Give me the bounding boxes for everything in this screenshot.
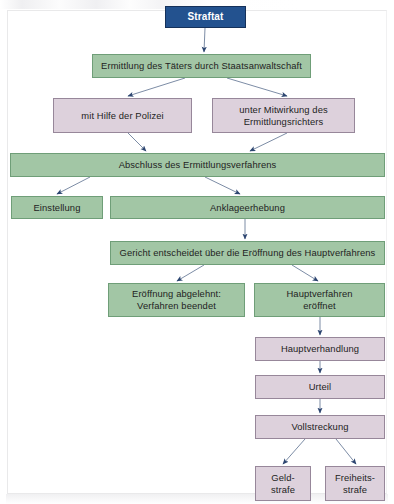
node-polizei: mit Hilfe der Polizei <box>53 98 192 133</box>
edge-ermittlung-to-polizei <box>128 78 185 96</box>
node-label-line: Geld- <box>268 472 298 484</box>
node-label-line: Straftat <box>185 11 227 24</box>
node-label-abschluss: Abschluss des Ermittlungsverfahrens <box>116 159 280 171</box>
node-label-einstellung: Einstellung <box>31 202 84 214</box>
node-label-line: Hauptverfahren <box>283 288 355 300</box>
node-label-line: Anklageerhebung <box>207 202 288 214</box>
node-straftat: Straftat <box>165 6 246 28</box>
node-ermittlung: Ermittlung des Täters durch Staatsanwalt… <box>92 54 311 78</box>
node-ermittlungsrichter: unter Mitwirkung desErmittlungsrichters <box>212 98 355 133</box>
node-label-line: Hauptverhandlung <box>278 343 362 355</box>
node-geldstrafe: Geld-strafe <box>255 466 311 501</box>
node-hauptverhandlung: Hauptverhandlung <box>255 337 385 361</box>
node-label-gericht: Gericht entscheidet über die Eröffnung d… <box>117 247 379 259</box>
node-label-line: Urteil <box>306 381 334 393</box>
node-label-line: strafe <box>268 484 298 496</box>
node-label-line: mit Hilfe der Polizei <box>78 110 166 122</box>
node-gericht: Gericht entscheidet über die Eröffnung d… <box>110 241 385 265</box>
node-label-vollstreckung: Vollstreckung <box>288 421 351 433</box>
node-label-ermittlung: Ermittlung des Täters durch Staatsanwalt… <box>98 60 305 72</box>
edge-vollstreckung-to-freiheitsstrafe <box>336 439 356 464</box>
node-label-urteil: Urteil <box>306 381 334 393</box>
edge-gericht-to-abgelehnt <box>177 265 204 281</box>
node-abgelehnt: Eröffnung abgelehnt:Verfahren beendet <box>108 283 245 317</box>
node-eroeffnet: Hauptverfahreneröffnet <box>254 283 385 317</box>
edge-gericht-to-eroeffnet <box>292 265 318 281</box>
node-label-line: Gericht entscheidet über die Eröffnung d… <box>117 247 379 259</box>
node-label-line: Ermittlung des Täters durch Staatsanwalt… <box>98 60 305 72</box>
node-label-polizei: mit Hilfe der Polizei <box>78 110 166 122</box>
node-einstellung: Einstellung <box>11 196 103 219</box>
node-label-abgelehnt: Eröffnung abgelehnt:Verfahren beendet <box>129 288 224 312</box>
node-label-eroeffnet: Hauptverfahreneröffnet <box>283 288 355 312</box>
edge-abschluss-to-einstellung <box>57 177 90 194</box>
node-label-line: eröffnet <box>283 300 355 312</box>
node-label-line: Einstellung <box>31 202 84 214</box>
flowchart-page: StraftatErmittlung des Täters durch Staa… <box>0 0 394 504</box>
node-label-line: Abschluss des Ermittlungsverfahrens <box>116 159 280 171</box>
node-label-freiheitsstrafe: Freiheits-strafe <box>332 472 378 496</box>
node-label-anklageerhebung: Anklageerhebung <box>207 202 288 214</box>
node-anklageerhebung: Anklageerhebung <box>110 196 385 219</box>
node-freiheitsstrafe: Freiheits-strafe <box>325 466 385 501</box>
node-label-line: Eröffnung abgelehnt: <box>129 288 224 300</box>
node-abschluss: Abschluss des Ermittlungsverfahrens <box>10 153 385 177</box>
edge-abschluss-to-anklageerhebung <box>205 177 240 194</box>
node-label-hauptverhandlung: Hauptverhandlung <box>278 343 362 355</box>
node-vollstreckung: Vollstreckung <box>255 415 385 439</box>
node-label-line: unter Mitwirkung des <box>236 104 331 116</box>
edge-ermittlungsrichter-to-abschluss <box>250 133 287 151</box>
node-label-geldstrafe: Geld-strafe <box>268 472 298 496</box>
edge-polizei-to-abschluss <box>128 133 146 151</box>
edge-ermittlung-to-ermittlungsrichter <box>227 78 287 96</box>
edge-straftat-to-ermittlung <box>204 28 205 52</box>
node-label-line: Ermittlungsrichters <box>236 116 331 128</box>
node-label-ermittlungsrichter: unter Mitwirkung desErmittlungsrichters <box>236 104 331 128</box>
edge-vollstreckung-to-geldstrafe <box>283 439 305 464</box>
node-label-straftat: Straftat <box>185 11 227 24</box>
node-label-line: Freiheits- <box>332 472 378 484</box>
node-label-line: Vollstreckung <box>288 421 351 433</box>
node-urteil: Urteil <box>255 375 385 399</box>
node-label-line: Verfahren beendet <box>129 300 224 312</box>
node-label-line: strafe <box>332 484 378 496</box>
